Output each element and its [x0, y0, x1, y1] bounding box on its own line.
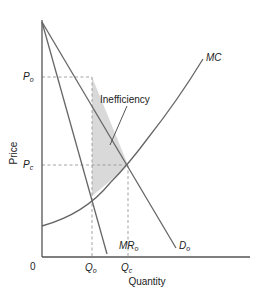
monopoly-inefficiency-diagram: Inefficiency MC Po Pc Price 0 Qo Qc MRo …: [0, 0, 256, 303]
demand-curve: [42, 22, 176, 248]
marginal-cost-curve: [42, 59, 203, 226]
qo-label: Qo: [85, 262, 97, 274]
mro-label: MRo: [119, 240, 139, 252]
inefficiency-label: Inefficiency: [100, 94, 150, 105]
mc-label: MC: [206, 52, 222, 63]
qc-label: Qc: [121, 262, 133, 274]
x-axis-label: Quantity: [128, 276, 165, 287]
do-label: Do: [179, 240, 190, 252]
y-axis-label: Price: [8, 141, 19, 164]
inefficiency-leader-line: [110, 106, 127, 145]
pc-label: Pc: [23, 159, 34, 171]
origin-label: 0: [30, 261, 36, 272]
po-label: Po: [23, 71, 34, 83]
